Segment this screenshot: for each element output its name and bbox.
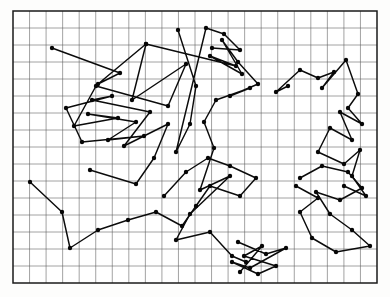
walk-node-point — [90, 98, 94, 102]
walk-node-point — [248, 266, 252, 270]
walk-node-point — [316, 196, 320, 200]
figure-root — [0, 0, 390, 297]
walk-node-point — [202, 120, 206, 124]
walk-node-point — [208, 184, 212, 188]
walk-node-point — [274, 264, 278, 268]
walk-node-point — [188, 122, 192, 126]
walk-node-point — [50, 46, 54, 50]
walk-node-point — [212, 146, 216, 150]
walk-node-point — [328, 212, 332, 216]
walk-node-point — [222, 32, 226, 36]
walk-node-point — [350, 228, 354, 232]
walk-node-point — [260, 244, 264, 248]
walk-node-point — [342, 162, 346, 166]
walk-node-point — [148, 110, 152, 114]
walk-node-point — [130, 98, 134, 102]
walk-node-point — [96, 228, 100, 232]
walk-node-point — [234, 64, 238, 68]
walk-node-point — [346, 170, 350, 174]
walk-node-point — [206, 156, 210, 160]
walk-node-point — [334, 250, 338, 254]
walk-node-point — [338, 110, 342, 114]
walk-node-point — [144, 42, 148, 46]
walk-node-point — [162, 194, 166, 198]
walk-node-point — [194, 84, 198, 88]
walk-node-point — [286, 84, 290, 88]
walk-node-point — [298, 210, 302, 214]
walk-node-point — [214, 98, 218, 102]
walk-node-point — [210, 46, 214, 50]
walk-node-point — [180, 224, 184, 228]
walk-node-point — [236, 60, 240, 64]
walk-node-point — [174, 238, 178, 242]
walk-node-point — [88, 168, 92, 172]
walk-node-point — [320, 164, 324, 168]
walk-node-point — [316, 150, 320, 154]
walk-node-point — [342, 184, 346, 188]
walk-node-point — [358, 148, 362, 152]
walk-node-point — [294, 184, 298, 188]
walk-node-point — [106, 138, 110, 142]
walk-node-point — [184, 62, 188, 66]
walk-node-point — [174, 150, 178, 154]
walk-node-point — [208, 54, 212, 58]
walk-node-point — [228, 174, 232, 178]
walk-node-point — [116, 116, 120, 120]
walk-node-point — [298, 176, 302, 180]
walk-node-point — [86, 112, 90, 116]
walk-node-point — [154, 210, 158, 214]
walk-node-point — [166, 104, 170, 108]
walk-node-point — [242, 254, 246, 258]
walk-node-point — [166, 122, 170, 126]
walk-node-point — [60, 210, 64, 214]
walk-node-point — [230, 260, 234, 264]
walk-node-point — [228, 164, 232, 168]
walk-node-point — [220, 38, 224, 42]
walk-node-point — [248, 86, 252, 90]
walk-node-point — [298, 68, 302, 72]
walk-node-point — [256, 82, 260, 86]
walk-node-point — [254, 176, 258, 180]
walk-node-point — [350, 138, 354, 142]
walk-node-point — [360, 186, 364, 190]
walk-node-point — [176, 28, 180, 32]
walk-node-point — [364, 194, 368, 198]
walk-node-point — [228, 94, 232, 98]
walk-node-point — [118, 71, 122, 75]
walk-node-point — [236, 240, 240, 244]
walk-node-point — [208, 230, 212, 234]
walk-node-point — [198, 188, 202, 192]
walk-node-point — [134, 120, 138, 124]
walk-node-point — [204, 26, 208, 30]
walk-node-point — [110, 94, 114, 98]
walk-node-point — [126, 218, 130, 222]
walk-node-point — [134, 182, 138, 186]
walk-node-point — [244, 260, 248, 264]
walk-node-point — [350, 174, 354, 178]
walk-node-point — [316, 76, 320, 80]
walk-node-point — [344, 58, 348, 62]
walk-node-point — [188, 212, 192, 216]
walk-node-point — [320, 86, 324, 90]
walk-node-point — [356, 92, 360, 96]
walk-node-point — [122, 144, 126, 148]
walk-node-point — [28, 180, 32, 184]
walk-node-point — [64, 106, 68, 110]
walk-node-point — [80, 140, 84, 144]
walk-node-point — [284, 246, 288, 250]
walk-node-point — [338, 198, 342, 202]
walk-node-point — [194, 204, 198, 208]
walk-node-point — [68, 246, 72, 250]
walk-node-point — [314, 190, 318, 194]
walk-node-point — [368, 244, 372, 248]
walk-node-point — [238, 270, 242, 274]
walk-node-point — [238, 194, 242, 198]
walk-node-point — [152, 156, 156, 160]
walk-node-point — [360, 122, 364, 126]
walk-node-point — [274, 90, 278, 94]
walk-node-point — [310, 236, 314, 240]
walk-node-point — [142, 134, 146, 138]
grid-polyline-figure — [0, 0, 390, 297]
walk-node-point — [240, 72, 244, 76]
walk-node-point — [264, 252, 268, 256]
